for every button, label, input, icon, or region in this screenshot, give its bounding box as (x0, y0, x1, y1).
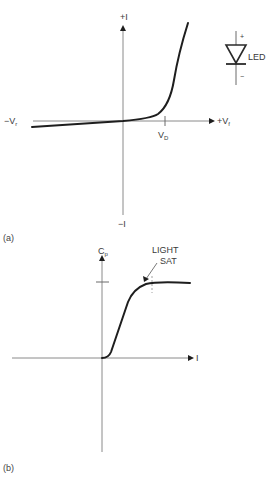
panel-b-light-output-curve: Cp I LIGHT SAT (b) (3, 245, 199, 473)
panel-b-current-label: I (196, 353, 199, 363)
panel-b-label: (b) (3, 463, 14, 473)
panel-a-y-arrow-icon (120, 25, 126, 31)
led-cathode-minus-label: − (240, 73, 244, 80)
panel-a-iv-curve-line (32, 23, 188, 127)
led-anode-plus-label: + (240, 33, 244, 40)
panel-a-label: (a) (3, 233, 14, 243)
panel-a-reverse-voltage-label: −Vr (4, 116, 17, 127)
panel-a-x-arrow-icon (209, 118, 215, 124)
panel-a-positive-current-label: +I (120, 12, 128, 22)
led-characteristics-figure: +I −I −Vr +Vf VD + − LED (a) (0, 0, 268, 482)
panel-b-saturation-leader (146, 263, 157, 279)
panel-b-sat-label: SAT (160, 256, 177, 266)
panel-b-saturation-arrow-icon (143, 276, 149, 282)
panel-a-negative-current-label: −I (118, 219, 126, 229)
panel-a-iv-curve: +I −I −Vr +Vf VD + − LED (a) (3, 12, 266, 243)
panel-a-vd-label: VD (158, 130, 169, 141)
led-label: LED (248, 52, 266, 62)
panel-b-x-arrow-icon (188, 355, 194, 361)
panel-b-cp-curve-line (102, 282, 190, 358)
panel-b-light-label: LIGHT (152, 245, 179, 255)
panel-a-forward-voltage-label: +Vf (217, 116, 230, 127)
panel-b-cp-label: Cp (98, 246, 109, 257)
